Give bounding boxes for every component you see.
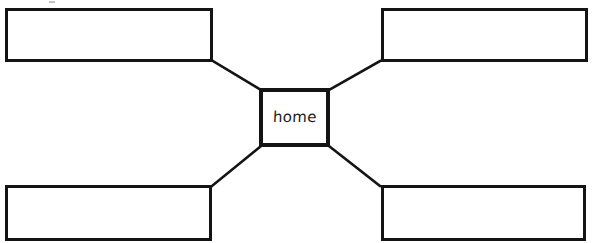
- center-topic-label: home: [272, 110, 317, 125]
- connector-center-to-top-right: [329, 61, 380, 90]
- connector-center-to-top-left: [213, 61, 261, 90]
- center-topic-box[interactable]: home: [259, 88, 330, 147]
- spider-diagram-worksheet: home: [0, 0, 599, 243]
- outer-box-bottom-right[interactable]: [381, 185, 586, 241]
- outer-box-top-right[interactable]: [381, 8, 588, 62]
- outer-box-bottom-left[interactable]: [5, 185, 212, 241]
- scan-artifact-mark: [49, 1, 55, 3]
- outer-box-top-left[interactable]: [5, 8, 213, 62]
- connector-center-to-bottom-right: [329, 146, 380, 186]
- connector-center-to-bottom-left: [212, 146, 261, 186]
